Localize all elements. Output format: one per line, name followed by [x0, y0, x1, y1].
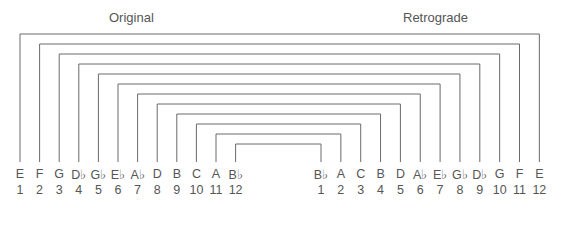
original-note-11: A [212, 167, 220, 181]
original-number-1: 1 [17, 183, 24, 197]
original-note-9: B [173, 167, 181, 181]
bracket-12 [236, 144, 321, 162]
retrograde-note-1: B♭ [314, 167, 328, 182]
retrograde-note-4: B [376, 167, 384, 181]
retrograde-note-2: A [337, 167, 345, 181]
retrograde-note-3: C [356, 167, 365, 181]
original-note-1: E [16, 167, 24, 181]
retrograde-note-9: D♭ [472, 167, 487, 182]
retrograde-note-11: F [516, 167, 524, 181]
original-number-12: 12 [229, 183, 243, 197]
original-note-4: D♭ [71, 167, 86, 182]
original-number-8: 8 [154, 183, 161, 197]
retrograde-number-12: 12 [532, 183, 546, 197]
bracket-6 [118, 84, 440, 162]
retrograde-number-11: 11 [513, 183, 526, 197]
bracket-5 [98, 74, 460, 162]
retrograde-note-7: E♭ [433, 167, 447, 182]
retrograde-number-4: 4 [377, 183, 384, 197]
original-number-5: 5 [95, 183, 102, 197]
bracket-8 [157, 104, 400, 162]
retrograde-number-8: 8 [456, 183, 463, 197]
retrograde-number-2: 2 [337, 183, 344, 197]
original-note-12: B♭ [228, 167, 242, 182]
retrograde-note-10: G [495, 167, 505, 181]
original-number-10: 10 [189, 183, 203, 197]
original-number-2: 2 [36, 183, 43, 197]
original-note-2: F [36, 167, 44, 181]
bracket-3 [59, 54, 499, 162]
original-note-6: E♭ [111, 167, 125, 182]
original-number-6: 6 [115, 183, 122, 197]
retrograde-note-12: E [535, 167, 543, 181]
original-number-9: 9 [173, 183, 180, 197]
original-number-4: 4 [75, 183, 82, 197]
retrograde-note-5: D [396, 167, 405, 181]
retrograde-number-5: 5 [397, 183, 404, 197]
original-note-10: C [192, 167, 201, 181]
original-number-11: 11 [210, 183, 223, 197]
original-note-8: D [153, 167, 162, 181]
retrograde-number-3: 3 [357, 183, 364, 197]
original-note-3: G [54, 167, 64, 181]
retrograde-number-1: 1 [318, 183, 325, 197]
retrograde-number-10: 10 [493, 183, 507, 197]
retrograde-number-6: 6 [417, 183, 424, 197]
retrograde-number-7: 7 [437, 183, 444, 197]
original-note-5: G♭ [91, 167, 107, 182]
bracket-10 [196, 124, 360, 162]
retrograde-note-6: A♭ [413, 167, 427, 182]
retrograde-note-8: G♭ [452, 167, 468, 182]
retrograde-number-9: 9 [476, 183, 483, 197]
bracket-4 [79, 64, 480, 162]
original-note-7: A♭ [130, 167, 144, 182]
original-number-7: 7 [134, 183, 141, 197]
bracket-9 [177, 114, 381, 162]
bracket-11 [216, 134, 341, 162]
original-number-3: 3 [56, 183, 63, 197]
